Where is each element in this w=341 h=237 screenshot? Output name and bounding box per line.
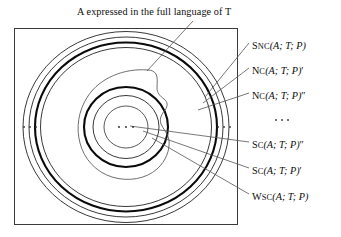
label-sc-prime-args: (A; T; P) (263, 165, 299, 176)
label-nc-prime: NC(A; T; P)′ (252, 65, 304, 76)
label-nc-double-prime: NC(A; T; P)″ (252, 90, 306, 101)
label-snc: SNC(A; T; P) (252, 40, 306, 51)
label-sc-double-prime-args: (A; T; P) (263, 139, 299, 150)
label-nc-prime-primes: ′ (301, 65, 303, 76)
label-nc-double-prime-args: (A; T; P) (265, 90, 301, 101)
label-sc-double-prime: SC(A; T; P)″ (252, 139, 304, 150)
label-wsc-lead: W (252, 191, 262, 202)
label-nc-double-prime-primes: ″ (301, 90, 305, 101)
title-symbol-a: A (77, 6, 84, 17)
page-title: A expressed in the full language of T (77, 6, 231, 17)
title-middle-text: expressed in the full language of (84, 6, 225, 17)
label-wsc: WSC(A; T; P) (252, 191, 308, 202)
label-wsc-lead-rest: SC (262, 193, 273, 202)
label-snc-args: (A; T; P) (270, 40, 306, 51)
label-sc-prime-primes: ′ (300, 165, 302, 176)
label-wsc-args: (A; T; P) (272, 191, 308, 202)
title-symbol-t: T (225, 6, 231, 17)
label-snc-lead-rest: NC (258, 42, 270, 51)
label-sc-double-prime-primes: ″ (300, 139, 304, 150)
label-sc-prime: SC(A; T; P)′ (252, 165, 302, 176)
label-nc-prime-args: (A; T; P) (265, 65, 301, 76)
